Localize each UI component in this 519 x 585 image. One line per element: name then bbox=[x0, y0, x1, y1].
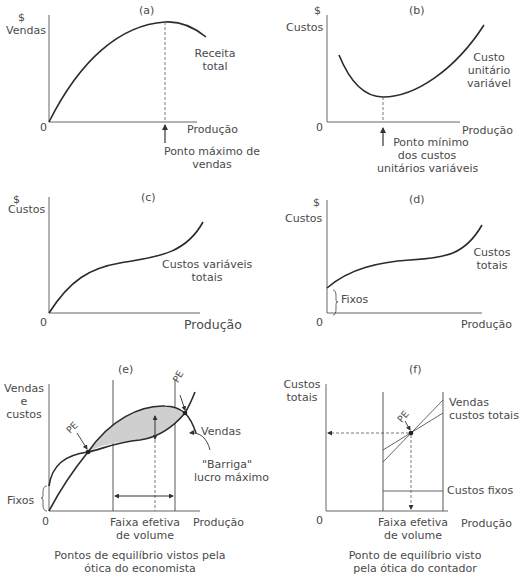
panel-b-note-line1: Ponto mínimo bbox=[377, 136, 477, 149]
panel-e-tag: (e) bbox=[118, 363, 133, 376]
panel-b-note-line2: dos custos bbox=[377, 149, 477, 162]
panel-d-curve-label-line2: totais bbox=[470, 259, 514, 272]
break-even-point bbox=[409, 431, 414, 436]
panel-e-graphic bbox=[41, 380, 210, 511]
panel-f-origin: 0 bbox=[316, 514, 323, 527]
panel-f-lines-label-line1: Vendas bbox=[449, 396, 519, 409]
panel-a-note-line2: vendas bbox=[162, 158, 262, 171]
panel-c-origin: 0 bbox=[40, 316, 47, 329]
panel-b-origin: 0 bbox=[316, 121, 323, 134]
panel-a-y-unit: $ bbox=[18, 11, 25, 24]
panel-d-fixed-label: Fixos bbox=[341, 293, 368, 306]
panel-f-caption-line2: pela ótica do contador bbox=[330, 562, 500, 575]
panel-f-y-label-line2: totais bbox=[280, 391, 324, 404]
panel-a-curve-label-line2: total bbox=[190, 60, 240, 73]
panel-b-y-unit: $ bbox=[314, 4, 321, 17]
panel-e-fixed-label: Fixos bbox=[7, 494, 34, 507]
panel-e-y-label: Vendas e custos bbox=[4, 382, 44, 421]
panel-b-note-line3: unitários variáveis bbox=[377, 162, 477, 175]
panel-b-y-label: Custos bbox=[286, 21, 323, 34]
panel-a-note-line1: Ponto máximo de bbox=[162, 145, 262, 158]
panel-b-curve-label-line2: unitário bbox=[464, 64, 514, 77]
panel-f-range-label: Faixa efetiva de volume bbox=[378, 516, 448, 542]
break-even-point-2 bbox=[183, 411, 188, 416]
total-revenue-curve bbox=[49, 22, 206, 122]
panel-b-curve-label: Custo unitário variável bbox=[464, 51, 514, 90]
panel-e-y-label-line2: e bbox=[4, 395, 44, 408]
panel-b-curve-label-line3: variável bbox=[464, 77, 514, 90]
panel-c-y-label: Custos bbox=[8, 203, 45, 216]
panel-e-y-label-line3: custos bbox=[4, 408, 44, 421]
panel-d-curve-label: Custos totais bbox=[470, 246, 514, 272]
panel-e-belly-label: "Barriga" lucro máximo bbox=[194, 458, 260, 484]
panel-f-graphic bbox=[326, 384, 448, 511]
panel-f-caption-line1: Ponto de equilíbrio visto bbox=[330, 549, 500, 562]
panel-c-curve-label-line2: totais bbox=[162, 271, 252, 284]
panel-d-x-label: Produção bbox=[461, 318, 512, 331]
panel-a-x-label: Produção bbox=[187, 123, 238, 136]
panel-a-y-label: Vendas bbox=[6, 24, 46, 37]
panel-e-belly-label-line2: lucro máximo bbox=[194, 471, 260, 484]
panel-e-x-label: Produção bbox=[193, 516, 244, 529]
profit-belly-area bbox=[88, 406, 185, 452]
panel-b-graphic bbox=[327, 15, 484, 146]
panel-d-tag: (d) bbox=[409, 193, 425, 206]
panel-a-tag: (a) bbox=[139, 4, 154, 17]
panel-b-tag: (b) bbox=[409, 4, 425, 17]
panel-e-caption-line2: ótica do economista bbox=[50, 562, 230, 575]
panel-a-origin: 0 bbox=[40, 121, 47, 134]
panel-f-caption: Ponto de equilíbrio visto pela ótica do … bbox=[330, 549, 500, 575]
panel-f-range-label-line2: de volume bbox=[378, 529, 448, 542]
pe-pointer-1-icon bbox=[77, 433, 87, 449]
break-even-point-1 bbox=[86, 450, 91, 455]
panel-d-y-label: Custos bbox=[285, 212, 322, 225]
panel-b-note: Ponto mínimo dos custos unitários variáv… bbox=[377, 136, 477, 175]
panel-f-range-label-line1: Faixa efetiva bbox=[378, 516, 448, 529]
panel-a-curve-label: Receita total bbox=[190, 47, 240, 73]
panel-e-belly-label-line1: "Barriga" bbox=[194, 458, 260, 471]
panel-c-x-label: Produção bbox=[184, 318, 242, 331]
panel-e-range-label-line2: de volume bbox=[110, 529, 180, 542]
panel-c-curve-label: Custos variáveis totais bbox=[162, 258, 252, 284]
panel-f-y-label: Custos totais bbox=[280, 378, 324, 404]
panel-c-graphic bbox=[49, 197, 203, 313]
panel-e-sales-label: Vendas bbox=[201, 425, 241, 438]
fixed-cost-brace-icon bbox=[41, 486, 47, 511]
panel-c-tag: (c) bbox=[141, 191, 156, 204]
panel-e-origin: 0 bbox=[42, 515, 49, 528]
panel-f-lines-label-line2: custos totais bbox=[449, 409, 519, 422]
panel-f-fixed-label: Custos fixos bbox=[447, 484, 513, 497]
panel-d-origin: 0 bbox=[316, 316, 323, 329]
panel-f-x-label: Produção bbox=[461, 517, 512, 530]
panel-e-y-label-line1: Vendas bbox=[4, 382, 44, 395]
panel-f-lines-label: Vendas custos totais bbox=[449, 396, 519, 422]
panel-e-range-label-line1: Faixa efetiva bbox=[110, 516, 180, 529]
panel-e-caption-line1: Pontos de equilíbrio vistos pela bbox=[50, 549, 230, 562]
panel-d-curve-label-line1: Custos bbox=[470, 246, 514, 259]
total-cost-curve bbox=[327, 225, 482, 288]
panel-f-y-label-line1: Custos bbox=[280, 378, 324, 391]
panel-d-y-unit: $ bbox=[313, 196, 320, 209]
fixed-cost-brace-icon bbox=[333, 290, 338, 315]
unit-variable-cost-curve bbox=[339, 25, 484, 97]
total-cost-line bbox=[383, 413, 443, 450]
panel-a-graphic bbox=[49, 15, 206, 143]
panel-e-caption: Pontos de equilíbrio vistos pela ótica d… bbox=[50, 549, 230, 575]
panel-a-curve-label-line1: Receita bbox=[190, 47, 240, 60]
pe-pointer-2-icon bbox=[180, 395, 185, 410]
panel-c-curve-label-line1: Custos variáveis bbox=[162, 258, 252, 271]
panel-b-curve-label-line1: Custo bbox=[464, 51, 514, 64]
panel-a-note: Ponto máximo de vendas bbox=[162, 145, 262, 171]
panel-e-range-label: Faixa efetiva de volume bbox=[110, 516, 180, 542]
panel-f-tag: (f) bbox=[409, 363, 421, 376]
